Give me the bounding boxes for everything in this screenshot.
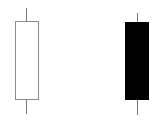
upper-wick [137,13,138,22]
upper-wick [26,8,27,21]
lower-wick [137,100,138,115]
candlestick-diagram [0,0,159,121]
candle-body-hollow [15,21,39,100]
candle-body-filled [125,22,149,100]
lower-wick [26,100,27,114]
